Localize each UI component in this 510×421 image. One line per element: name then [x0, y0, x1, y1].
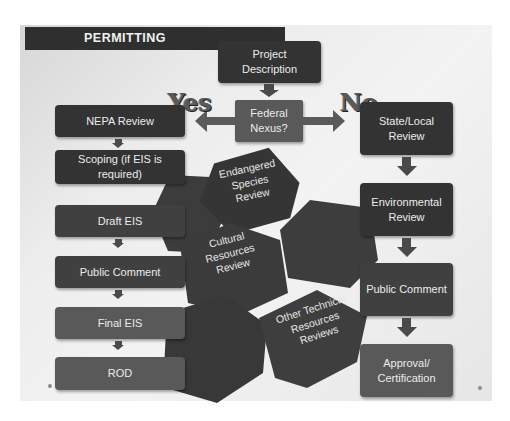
box-label: ROD: [108, 366, 132, 381]
bullet-dot-left: [48, 384, 52, 388]
federal-nexus-box: Federal Nexus?: [235, 100, 303, 142]
nepa-review-box: NEPA Review: [55, 105, 185, 137]
box-label: NEPA Review: [86, 114, 154, 129]
draft-eis-box: Draft EIS: [55, 205, 185, 237]
box-label: Draft EIS: [98, 214, 143, 229]
box-label: Federal Nexus?: [244, 106, 294, 136]
final-eis-box: Final EIS: [55, 307, 185, 339]
page-title: PERMITTING: [25, 27, 225, 50]
approval-certification-box: Approval/ Certification: [360, 344, 453, 397]
box-label: Environmental Review: [364, 195, 449, 225]
box-label: Public Comment: [366, 282, 447, 297]
box-label: State/Local Review: [372, 114, 442, 144]
box-label: Approval/ Certification: [367, 356, 447, 386]
state-local-review-box: State/Local Review: [360, 102, 453, 155]
box-label: Final EIS: [98, 316, 143, 331]
scoping-box: Scoping (if EIS is required): [55, 150, 185, 184]
rod-box: ROD: [55, 357, 185, 390]
box-label: Project Description: [235, 47, 305, 77]
arrow-right-icon: [303, 108, 345, 134]
project-description-box: Project Description: [218, 41, 321, 83]
box-label: Scoping (if EIS is required): [70, 152, 170, 182]
public-comment-federal-box: Public Comment: [55, 256, 185, 288]
public-comment-state-box: Public Comment: [360, 263, 453, 316]
box-label: Public Comment: [80, 265, 161, 280]
environmental-review-box: Environmental Review: [360, 183, 453, 236]
bullet-dot-right: [478, 386, 482, 390]
